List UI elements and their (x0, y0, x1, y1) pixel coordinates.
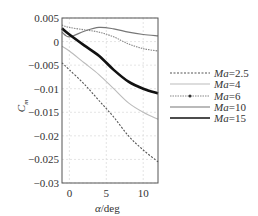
y-tick-label: 0 (54, 36, 60, 48)
legend: Ma=2.5Ma=4Ma=6Ma=10Ma=15 (170, 67, 249, 124)
legend-marker (189, 95, 192, 98)
grid (62, 18, 158, 183)
series-lines (62, 25, 158, 162)
y-tick-label: −0.015 (28, 106, 59, 118)
legend-label: Ma=15 (213, 112, 246, 124)
x-axis-label: α/deg (95, 202, 120, 214)
x-tick-label: 5 (104, 187, 110, 199)
y-tick-label: −0.03 (34, 177, 60, 189)
chart: 0.0050−0.005−0.01−0.015−0.02−0.025−0.03 … (0, 0, 258, 216)
y-tick-label: −0.025 (28, 153, 59, 165)
y-axis-ticks: 0.0050−0.005−0.01−0.015−0.02−0.025−0.03 (28, 12, 59, 189)
y-tick-label: −0.01 (34, 83, 59, 95)
x-tick-label: 0 (67, 187, 73, 199)
y-tick-label: −0.02 (34, 130, 59, 142)
x-tick-label: 10 (138, 187, 150, 199)
x-axis-ticks: 0510 (67, 187, 150, 199)
y-tick-label: −0.005 (28, 59, 59, 71)
legend-label: Ma=4 (213, 78, 241, 90)
y-tick-label: 0.005 (34, 12, 59, 24)
